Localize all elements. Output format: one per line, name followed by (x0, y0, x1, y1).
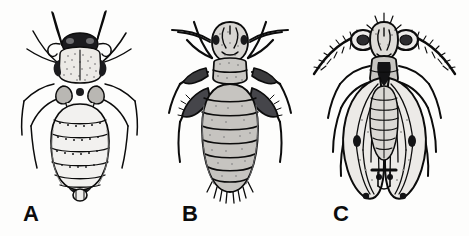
illustration-plate: A B C (0, 0, 469, 236)
eye-right-pupil (400, 35, 412, 45)
eye-right (86, 38, 94, 44)
leg-mid-left (22, 84, 54, 135)
eye-left-pupil (357, 35, 369, 45)
figure-label-c: C (333, 203, 349, 225)
figure-label-b: B (182, 203, 198, 225)
wing-pad-right (88, 86, 104, 104)
eye-left (66, 38, 74, 44)
wing-pad-left (56, 86, 72, 104)
figure-label-a: A (23, 203, 39, 225)
forewing-left-stigma (353, 135, 361, 147)
forewing-left-spot-inner (376, 174, 382, 180)
eye-left (213, 35, 220, 45)
femur-mid-left (183, 68, 208, 84)
forewing-left-spot-apex (363, 193, 369, 199)
antenna-left (52, 12, 62, 45)
figure-b-drawing (150, 0, 310, 236)
metathorax-node (76, 88, 84, 96)
antenna-left (172, 30, 210, 42)
leg-fore-left (27, 31, 58, 63)
genital-plate (73, 189, 87, 201)
forewing-right-spot-apex (400, 193, 406, 199)
leg-fore-right (101, 33, 131, 63)
figure-c-winged-adult-psocid (300, 0, 469, 236)
eye-right (241, 35, 248, 45)
figure-b-brachypterous-psocid (150, 0, 310, 236)
leg-mid-right (105, 84, 137, 135)
forewing-right-stigma (408, 135, 416, 147)
figure-c-drawing (300, 0, 469, 236)
femur-mid-right (252, 68, 277, 84)
antenna-right (250, 30, 288, 42)
